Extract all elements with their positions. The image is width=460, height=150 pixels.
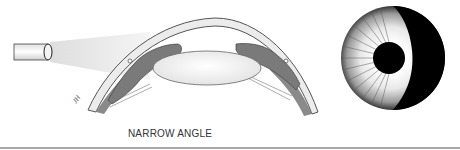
artist-signature: JH	[71, 93, 83, 105]
divider-rule	[0, 147, 460, 149]
pupil	[373, 42, 405, 74]
eye-front-view	[341, 6, 445, 110]
lens	[153, 51, 261, 85]
figure-caption: NARROW ANGLE	[0, 128, 340, 139]
penlight-icon	[14, 44, 52, 60]
